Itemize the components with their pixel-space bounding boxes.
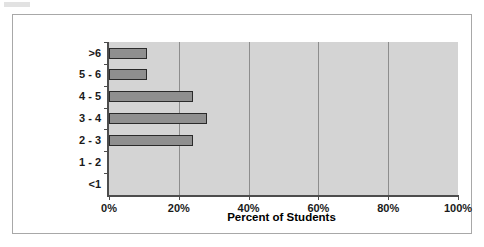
x-tick-0 — [109, 195, 110, 200]
y-tick-label-gt6: >6 — [41, 48, 101, 59]
x-tick-40 — [249, 195, 250, 200]
y-axis-title: Time to Perform (hrs) — [0, 35, 3, 235]
chart-figure: Time to Perform (hrs) 0% 20% 40% 60% 80%… — [0, 0, 484, 247]
y-tick-label-lt1: <1 — [41, 179, 101, 190]
x-axis-title: Percent of Students — [107, 211, 456, 223]
plot-area: 0% 20% 40% 60% 80% 100% >6 5 - 6 4 - 5 3… — [107, 42, 458, 197]
bar-5-6 — [109, 69, 147, 80]
bars-layer — [109, 42, 458, 195]
bar-4-5 — [109, 91, 193, 102]
y-tick-label-1-2: 1 - 2 — [41, 157, 101, 168]
x-tick-80 — [388, 195, 389, 200]
y-tick-label-5-6: 5 - 6 — [41, 69, 101, 80]
x-tick-20 — [179, 195, 180, 200]
x-tick-60 — [318, 195, 319, 200]
chart-frame: Time to Perform (hrs) 0% 20% 40% 60% 80%… — [12, 14, 472, 234]
y-tick-label-3-4: 3 - 4 — [41, 113, 101, 124]
bar-gt6 — [109, 48, 147, 59]
bar-2-3 — [109, 135, 193, 146]
x-tick-100 — [458, 195, 459, 200]
bar-3-4 — [109, 113, 207, 124]
y-tick-label-4-5: 4 - 5 — [41, 91, 101, 102]
scan-artifact — [4, 2, 30, 7]
y-tick-label-2-3: 2 - 3 — [41, 135, 101, 146]
